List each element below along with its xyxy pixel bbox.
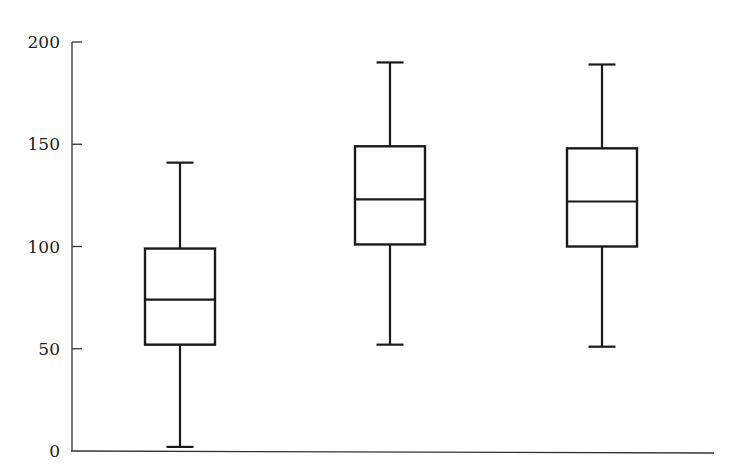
iqr-box (567, 148, 637, 246)
iqr-box (355, 146, 425, 244)
y-tick-label: 0 (49, 441, 60, 461)
box-2 (355, 62, 425, 344)
box-plot-chart: 050100150200 (0, 0, 738, 476)
x-axis-line (71, 451, 714, 453)
y-tick-label: 150 (28, 134, 60, 154)
box-1 (145, 163, 215, 447)
box-3 (567, 64, 637, 346)
boxes (145, 62, 637, 446)
y-tick-label: 200 (28, 32, 60, 52)
y-tick-label: 50 (38, 339, 60, 359)
y-tick-label: 100 (28, 237, 60, 257)
iqr-box (145, 249, 215, 345)
y-axis: 050100150200 (28, 32, 82, 461)
x-axis (71, 451, 714, 453)
